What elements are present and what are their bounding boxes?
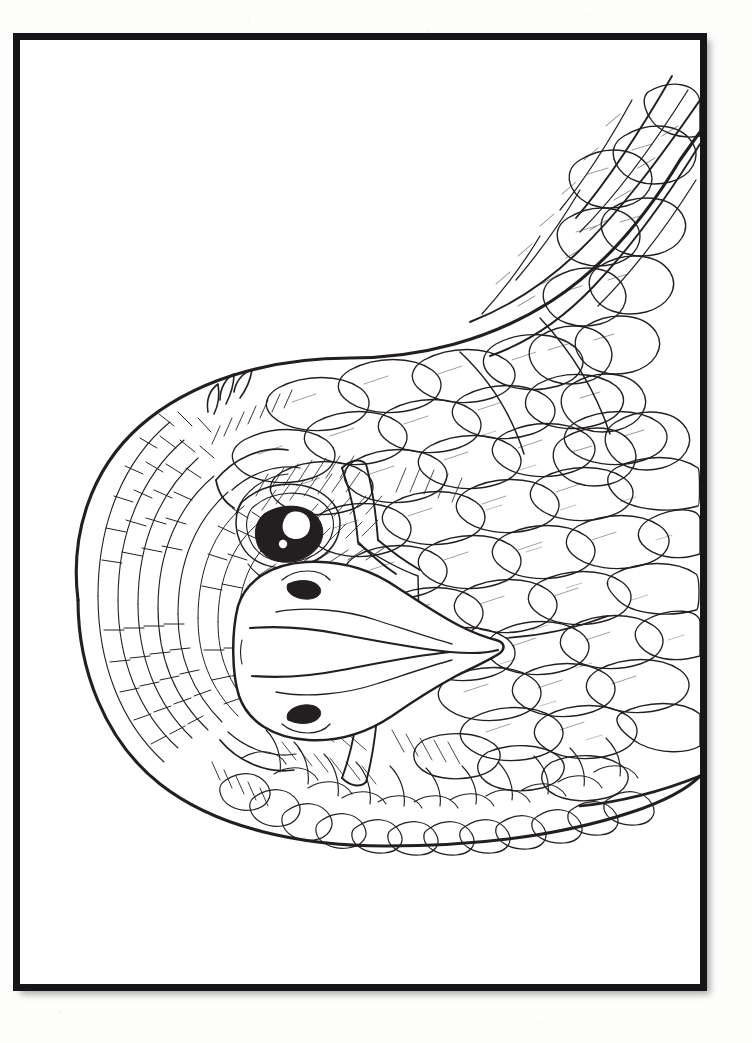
eagle-line-art — [20, 40, 700, 984]
artwork-frame — [13, 33, 707, 991]
coloring-book-page — [0, 0, 752, 1043]
